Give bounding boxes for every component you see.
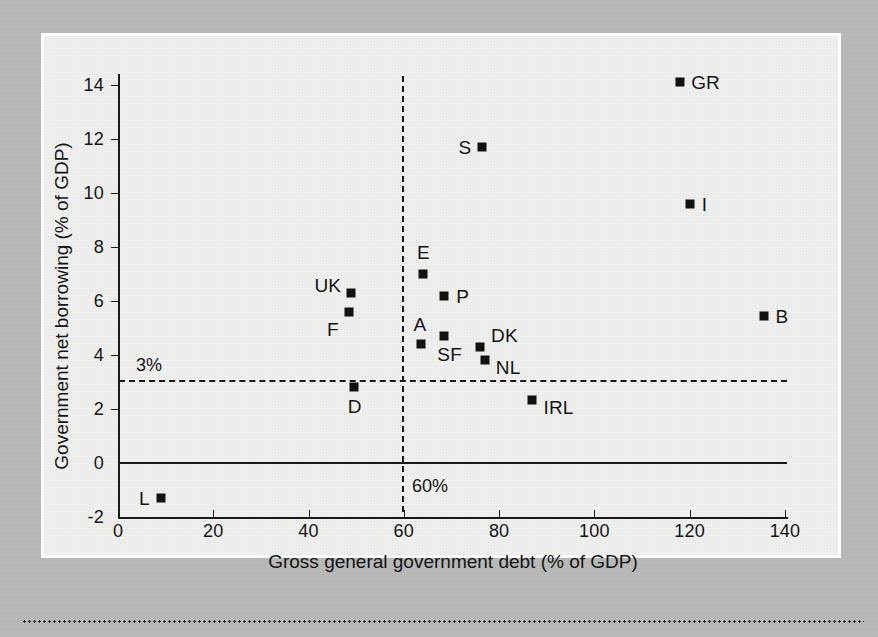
data-point-b (759, 311, 768, 320)
zero-reference-line (119, 462, 787, 464)
data-point-p (440, 291, 449, 300)
sixty-percent-reference-line (402, 76, 404, 512)
data-point-label-dk: DK (491, 325, 518, 347)
data-point-label-nl: NL (496, 357, 521, 379)
data-point-i (685, 199, 694, 208)
data-point-label-d: D (348, 396, 362, 418)
data-point-label-s: S (458, 137, 471, 159)
scatter-plot: 3% 60% 020406080100120140 -202468101214 … (0, 0, 878, 637)
y-tick (111, 301, 119, 302)
x-axis-title: Gross general government debt (% of GDP) (118, 551, 788, 573)
data-point-uk (347, 288, 356, 297)
x-tick-label: 140 (770, 521, 801, 542)
y-tick (111, 247, 119, 248)
data-point-label-e: E (417, 242, 430, 264)
x-tick (690, 510, 691, 517)
data-point-dk (476, 342, 485, 351)
x-tick (118, 510, 119, 517)
data-point-label-b: B (776, 306, 789, 328)
x-axis-line (118, 517, 788, 519)
data-point-label-sf: SF (437, 344, 462, 366)
x-tick-label: 100 (579, 521, 610, 542)
data-point-gr (676, 78, 685, 87)
x-tick (309, 510, 310, 517)
x-tick (785, 510, 786, 517)
y-tick (111, 139, 119, 140)
x-tick (404, 510, 405, 517)
data-point-label-i: I (702, 194, 707, 216)
y-tick (111, 193, 119, 194)
y-tick-label: 14 (0, 75, 104, 96)
x-tick-label: 0 (113, 521, 123, 542)
data-point-e (418, 270, 427, 279)
data-point-label-f: F (327, 319, 339, 341)
data-point-label-p: P (456, 286, 469, 308)
data-point-nl (480, 356, 489, 365)
data-point-f (345, 307, 354, 316)
data-point-s (478, 143, 487, 152)
three-percent-reference-line (119, 380, 787, 382)
y-tick (111, 409, 119, 410)
x-tick-label: 20 (203, 521, 223, 542)
x-tick-label: 80 (489, 521, 509, 542)
x-tick-label: 60 (394, 521, 414, 542)
data-point-label-irl: IRL (543, 397, 573, 419)
data-point-label-gr: GR (691, 72, 720, 94)
sixty-percent-label: 60% (412, 476, 448, 497)
x-tick (594, 510, 595, 517)
data-point-irl (528, 395, 537, 404)
data-point-d (349, 383, 358, 392)
data-point-label-a: A (414, 314, 427, 336)
x-tick-label: 40 (298, 521, 318, 542)
data-point-label-uk: UK (314, 275, 341, 297)
y-tick (111, 355, 119, 356)
x-tick (499, 510, 500, 517)
data-point-sf (440, 332, 449, 341)
x-tick-label: 120 (674, 521, 705, 542)
data-point-l (156, 494, 165, 503)
x-tick (213, 510, 214, 517)
y-axis-title: Government net borrowing (% of GDP) (51, 96, 73, 516)
three-percent-label: 3% (136, 355, 162, 376)
y-axis-line (118, 74, 120, 519)
data-point-a (416, 340, 425, 349)
data-point-label-l: L (139, 488, 150, 510)
y-tick (111, 85, 119, 86)
